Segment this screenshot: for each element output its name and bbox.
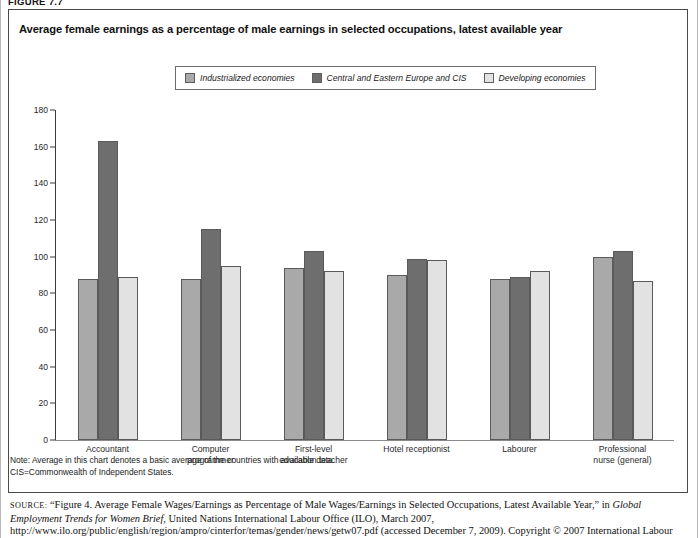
legend-label: Industrialized economies — [200, 73, 295, 83]
y-axis-tick-label: 140 — [34, 178, 48, 188]
x-axis-category-label: Hotel receptionist — [365, 444, 468, 466]
legend-label: Developing economies — [499, 73, 586, 83]
bar — [78, 279, 98, 440]
y-axis-tick-label: 80 — [38, 288, 48, 298]
bar-group — [159, 110, 262, 440]
bar — [304, 251, 324, 440]
x-axis-category-label: Professionalnurse (general) — [571, 444, 674, 466]
bar — [387, 275, 407, 440]
bar-group — [571, 110, 674, 440]
x-axis-line — [55, 440, 674, 441]
chart-legend: Industrialized economiesCentral and East… — [175, 66, 596, 90]
x-axis-category-line: Hotel receptionist — [365, 444, 468, 455]
x-axis-category-line: Accountant — [56, 444, 159, 455]
x-axis-category-line: Computer — [159, 444, 262, 455]
y-axis-tick-label: 40 — [38, 362, 48, 372]
bar-group — [262, 110, 365, 440]
bar — [201, 229, 221, 440]
page-title: Average female earnings as a percentage … — [19, 23, 562, 35]
bar — [510, 277, 530, 440]
legend-item: Developing economies — [484, 73, 586, 83]
note-line-2: CIS=Commonwealth of Independent States. — [10, 467, 335, 479]
note-line-1: Note: Average in this chart denotes a ba… — [10, 455, 335, 467]
bar — [118, 277, 138, 440]
source-prefix: SOURCE: — [10, 501, 47, 510]
bar — [593, 257, 613, 440]
y-axis-tick-label: 180 — [34, 105, 48, 115]
page-left-rule — [0, 0, 1, 538]
x-axis-category-line: nurse (general) — [571, 455, 674, 466]
y-axis-labels: 020406080100120140160180 — [9, 110, 55, 440]
y-axis-tick-label: 0 — [43, 435, 48, 445]
figure-box: Average female earnings as a percentage … — [8, 9, 688, 493]
bar — [98, 141, 118, 440]
bar — [530, 271, 550, 440]
x-axis-category-label: Labourer — [468, 444, 571, 466]
bar — [181, 279, 201, 440]
bar — [324, 271, 344, 440]
legend-label: Central and Eastern Europe and CIS — [327, 73, 467, 83]
bar-group — [56, 110, 159, 440]
y-axis-tick-label: 60 — [38, 325, 48, 335]
legend-item: Central and Eastern Europe and CIS — [312, 73, 467, 83]
legend-item: Industrialized economies — [185, 73, 295, 83]
legend-swatch-icon — [185, 73, 195, 83]
y-axis-tick-label: 20 — [38, 398, 48, 408]
source-part-1: “Figure 4. Average Female Wages/Earnings… — [47, 499, 612, 510]
bar — [633, 281, 653, 441]
bar-group — [365, 110, 468, 440]
bar — [613, 251, 633, 440]
y-axis-tick-label: 160 — [34, 142, 48, 152]
x-axis-category-line: Labourer — [468, 444, 571, 455]
bar — [407, 259, 427, 441]
chart-notes: Note: Average in this chart denotes a ba… — [10, 455, 335, 478]
x-axis-category-line: Professional — [571, 444, 674, 455]
bar — [427, 260, 447, 440]
legend-swatch-icon — [312, 73, 322, 83]
source-block: SOURCE: “Figure 4. Average Female Wages/… — [10, 499, 686, 538]
plot-area: 020406080100120140160180 AccountantCompu… — [9, 110, 689, 455]
bar-group — [468, 110, 571, 440]
legend-swatch-icon — [484, 73, 494, 83]
bar — [284, 268, 304, 440]
x-axis-category-line: First-level — [262, 444, 365, 455]
figure-label: FIGURE 7.7 — [8, 0, 63, 6]
bar — [221, 266, 241, 440]
y-axis-tick-label: 120 — [34, 215, 48, 225]
bar — [490, 279, 510, 440]
y-axis-tick-label: 100 — [34, 252, 48, 262]
bars-area — [56, 110, 674, 440]
